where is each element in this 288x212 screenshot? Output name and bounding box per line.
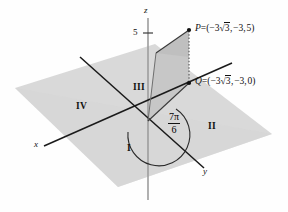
y-axis-label: y [203,167,207,176]
z-tick-label-5: 5 [133,28,138,37]
angle-label: 7π 6 [168,112,180,135]
point-P-close-paren: ) [251,23,254,33]
point-Q-label: Q=(−3√3, −3, 0) [195,77,255,87]
point-Q-close-paren: ) [252,76,255,86]
point-P-x-coeff: −3 [209,23,219,33]
angle-denominator: 6 [168,125,180,136]
point-Q-x-coeff: −3 [210,76,220,86]
quadrant-label-iii: III [133,83,145,93]
point-Q-radicand: 3 [225,75,231,86]
point-P-comma-1: , [230,23,232,33]
coordinate-figure: z x y 5 I II III IV P=(−3√3, −3, 5) Q=(−… [0,0,288,212]
angle-numerator: 7π [168,112,180,123]
quadrant-label-iv: IV [76,102,87,112]
point-Q-name: Q [195,76,202,86]
quadrant-label-i: I [127,144,131,154]
point-Q-dot [187,81,191,85]
point-P-dot [187,28,191,32]
point-P-label: P=(−3√3, −3, 5) [195,24,254,34]
point-P-sqrt-icon: √3 [219,24,229,34]
z-axis-label: z [144,6,148,15]
point-P-y: −3 [233,23,243,33]
point-Q-sqrt-icon: √3 [221,77,231,87]
point-P-radicand: 3 [224,22,230,33]
quadrant-label-ii: II [208,122,216,132]
point-Q-comma-1: , [231,76,233,86]
x-axis-label: x [34,140,38,149]
point-Q-y: −3 [234,76,244,86]
